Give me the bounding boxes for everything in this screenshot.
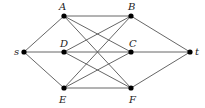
node-D — [61, 49, 66, 54]
node-F — [128, 85, 133, 90]
edge-F-t — [131, 52, 190, 88]
node-label-t: t — [195, 46, 200, 57]
node-B — [128, 13, 133, 18]
node-C — [128, 49, 133, 54]
node-A — [61, 13, 66, 18]
node-label-C: C — [129, 38, 137, 49]
node-label-s: s — [14, 46, 19, 57]
node-s — [21, 49, 26, 54]
node-label-D: D — [59, 38, 68, 49]
node-t — [187, 49, 192, 54]
node-label-A: A — [58, 1, 66, 12]
graph-diagram: sADEBCFt — [0, 0, 205, 108]
labels: sADEBCFt — [14, 1, 200, 105]
node-E — [61, 85, 66, 90]
edge-B-t — [131, 16, 190, 52]
node-label-B: B — [127, 1, 135, 12]
edge-s-E — [24, 52, 64, 88]
edge-s-A — [24, 16, 64, 52]
edges — [24, 16, 190, 88]
node-label-E: E — [58, 94, 67, 105]
node-label-F: F — [128, 94, 137, 105]
